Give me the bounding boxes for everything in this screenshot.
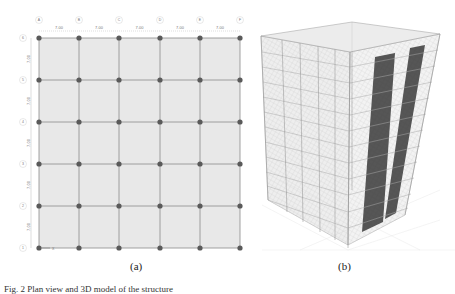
column-axis-labels: A B C D E F: [38, 18, 241, 22]
svg-text:7.00: 7.00: [26, 54, 31, 63]
svg-text:3: 3: [22, 162, 24, 166]
svg-text:7.00: 7.00: [136, 25, 145, 30]
subfigure-label-b: (b): [338, 260, 351, 272]
plan-grid-drawing: A B C D E F 7.00 7.00 7.00 7.00 7.00 6 5…: [0, 0, 255, 260]
svg-text:D: D: [159, 18, 162, 22]
svg-text:7.00: 7.00: [216, 25, 225, 30]
svg-text:7.00: 7.00: [55, 25, 64, 30]
row-axis-labels: 6 5 4 3 2 1: [22, 36, 24, 250]
svg-text:B: B: [78, 18, 81, 22]
svg-text:7.00: 7.00: [26, 138, 31, 147]
svg-text:7.00: 7.00: [95, 25, 104, 30]
svg-text:7.00: 7.00: [176, 25, 185, 30]
figure-caption: Fig. 2 Plan view and 3D model of the str…: [4, 284, 173, 294]
svg-text:6: 6: [22, 36, 24, 40]
3d-model-panel: [250, 0, 455, 260]
left-facade-shade: [261, 36, 350, 245]
subfigure-label-a: (a): [130, 260, 142, 272]
svg-text:C: C: [118, 18, 121, 22]
svg-text:5: 5: [22, 78, 24, 82]
svg-text:E: E: [199, 18, 202, 22]
svg-text:4: 4: [22, 120, 24, 124]
column-axis-bubbles: [36, 17, 244, 24]
svg-text:7.00: 7.00: [26, 180, 31, 189]
svg-text:1: 1: [22, 246, 24, 250]
svg-text:2: 2: [22, 204, 24, 208]
svg-text:7.00: 7.00: [26, 222, 31, 231]
svg-text:F: F: [239, 18, 241, 22]
svg-text:7.00: 7.00: [26, 96, 31, 105]
plan-view-panel: A B C D E F 7.00 7.00 7.00 7.00 7.00 6 5…: [0, 0, 255, 260]
column-spacing-labels: 7.00 7.00 7.00 7.00 7.00: [55, 25, 225, 30]
svg-text:A: A: [38, 18, 41, 22]
floor-slab: [39, 38, 240, 248]
3d-building-drawing: [250, 0, 455, 260]
